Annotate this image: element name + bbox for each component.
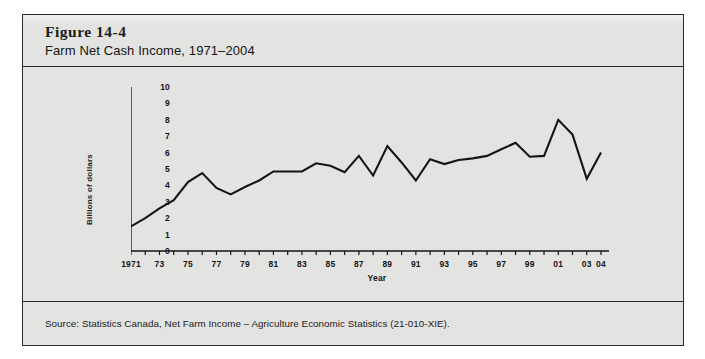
- figure-header: Figure 14-4 Farm Net Cash Income, 1971–2…: [23, 15, 683, 67]
- x-tick-label: 03: [582, 259, 592, 269]
- figure-title: Farm Net Cash Income, 1971–2004: [45, 41, 683, 61]
- axis-lines: [131, 87, 609, 251]
- x-tick-label: 01: [553, 259, 563, 269]
- x-tick-label: 85: [325, 259, 335, 269]
- line-chart: Billions of dollars 012345678910 1971737…: [85, 83, 645, 301]
- plot-area: 012345678910 197173757779818385878991939…: [131, 83, 623, 301]
- source-text: Source: Statistics Canada, Net Farm Inco…: [45, 318, 450, 329]
- source-note: Source: Statistics Canada, Net Farm Inco…: [23, 301, 683, 345]
- figure-card: Figure 14-4 Farm Net Cash Income, 1971–2…: [22, 14, 684, 346]
- x-tick-label: 77: [212, 259, 222, 269]
- data-series-line: [131, 120, 601, 227]
- x-tick-label: 1971: [121, 259, 141, 269]
- x-tick-label: 93: [439, 259, 449, 269]
- x-tick-label: 95: [468, 259, 478, 269]
- x-tick-label: 73: [155, 259, 165, 269]
- x-tick-label: 99: [525, 259, 535, 269]
- x-tick-label: 87: [354, 259, 364, 269]
- x-axis-tick-labels: 19717375777981838587899193959799010304: [131, 251, 623, 269]
- x-axis-label: Year: [131, 273, 623, 283]
- x-tick-label: 83: [297, 259, 307, 269]
- x-tick-label: 81: [268, 259, 278, 269]
- x-tick-label: 89: [382, 259, 392, 269]
- x-tick-label: 04: [596, 259, 606, 269]
- y-axis-label: Billions of dollars: [85, 135, 99, 245]
- x-tick-label: 75: [183, 259, 193, 269]
- x-tick-label: 97: [496, 259, 506, 269]
- x-tick-label: 91: [411, 259, 421, 269]
- chart-region: Billions of dollars 012345678910 1971737…: [23, 67, 683, 303]
- figure-number: Figure 14-4: [45, 22, 683, 41]
- x-tick-label: 79: [240, 259, 250, 269]
